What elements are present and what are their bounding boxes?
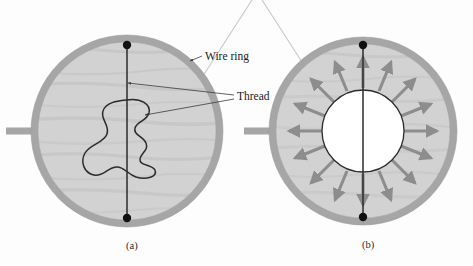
thread-anchor-top-a <box>123 41 131 49</box>
thread-anchor-bottom-a <box>123 214 131 222</box>
label-thread: Thread <box>237 90 270 102</box>
label-wire-ring: Wire ring <box>205 50 249 62</box>
thread-anchor-bottom-b <box>359 213 367 221</box>
caption-panel-a: (a) <box>126 240 138 251</box>
thread-anchor-top-b <box>359 41 367 49</box>
soap-film-figure <box>0 0 473 266</box>
caption-panel-b: (b) <box>362 239 374 250</box>
